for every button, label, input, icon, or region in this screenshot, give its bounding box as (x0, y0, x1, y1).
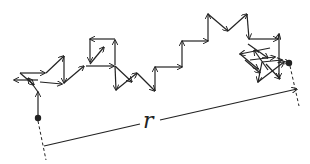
distance-label-r: r (143, 110, 154, 132)
displacement-line (44, 89, 297, 146)
random-walk-diagram (0, 0, 310, 164)
start-point (35, 115, 46, 160)
end-point (286, 60, 299, 106)
walk-path (14, 14, 289, 118)
